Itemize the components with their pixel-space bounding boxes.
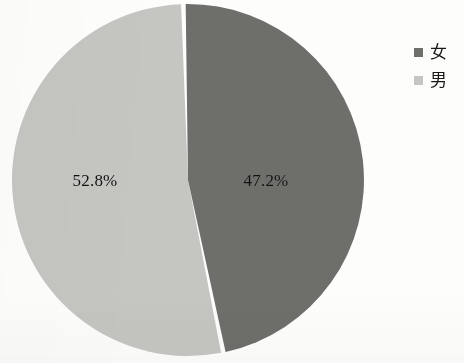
legend-swatch-icon-male: [414, 76, 423, 85]
pie-plot-area: 52.8% 47.2%: [0, 0, 380, 363]
legend-swatch-icon-female: [414, 48, 423, 57]
slice-label-male: 47.2%: [244, 171, 289, 191]
chart-legend: 女 男: [414, 38, 464, 94]
legend-item-female[interactable]: 女: [414, 38, 464, 66]
legend-label-male: 男: [430, 72, 447, 89]
pie-svg: [0, 0, 380, 363]
legend-item-male[interactable]: 男: [414, 66, 464, 94]
pie-chart: 52.8% 47.2% 女 男: [0, 0, 464, 363]
slice-label-female: 52.8%: [73, 171, 118, 191]
legend-label-female: 女: [430, 44, 447, 61]
